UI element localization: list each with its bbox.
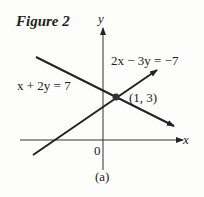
diagram-canvas xyxy=(0,0,204,197)
origin-label: 0 xyxy=(94,144,101,157)
y-axis-label: y xyxy=(98,12,104,25)
x-axis-label: x xyxy=(183,133,189,146)
intersection-label: (1, 3) xyxy=(129,91,157,104)
figure-title: Figure 2 xyxy=(16,14,70,29)
intersection-point xyxy=(113,94,120,101)
figure-caption: (a) xyxy=(95,170,109,183)
equation-label-2: x + 2y = 7 xyxy=(17,79,71,92)
equation-label-1: 2x − 3y = −7 xyxy=(111,54,179,67)
